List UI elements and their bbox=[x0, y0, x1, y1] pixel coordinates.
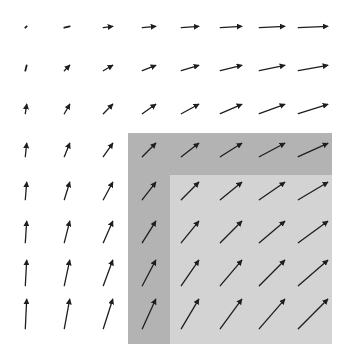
arrow-icon bbox=[64, 26, 69, 27]
arrow-icon bbox=[142, 26, 155, 27]
arrow-icon bbox=[181, 299, 198, 328]
arrow-icon bbox=[25, 65, 26, 70]
vector-field-diagram bbox=[0, 0, 350, 358]
arrow-icon bbox=[259, 299, 284, 328]
arrow-icon bbox=[298, 104, 327, 113]
arrow-icon bbox=[142, 260, 155, 285]
arrow-icon bbox=[298, 143, 327, 156]
arrow-icon bbox=[64, 143, 69, 156]
arrow-icon bbox=[220, 26, 241, 27]
arrow-icon bbox=[220, 260, 241, 285]
arrow-icon bbox=[64, 221, 69, 242]
arrow-icon bbox=[103, 182, 112, 199]
arrow-icon bbox=[220, 65, 241, 70]
arrow-icon bbox=[181, 104, 198, 113]
arrow-icon bbox=[25, 26, 26, 27]
arrow-icon bbox=[25, 182, 26, 199]
arrow-icon bbox=[259, 182, 284, 199]
arrow-icon bbox=[181, 182, 198, 199]
arrow-icon bbox=[220, 182, 241, 199]
arrow-icon bbox=[298, 299, 327, 328]
arrow-icon bbox=[103, 65, 112, 70]
arrow-icon bbox=[64, 104, 69, 113]
arrow-icon bbox=[142, 104, 155, 113]
arrow-icon bbox=[298, 260, 327, 285]
arrow-icon bbox=[259, 221, 284, 242]
arrow-icon bbox=[25, 299, 26, 328]
arrow-icon bbox=[181, 65, 198, 70]
arrow-icon bbox=[142, 65, 155, 70]
arrow-icon bbox=[25, 221, 26, 242]
arrow-icon bbox=[181, 221, 198, 242]
arrow-icon bbox=[181, 26, 198, 27]
arrow-grid bbox=[0, 0, 350, 358]
arrow-icon bbox=[64, 260, 69, 285]
arrow-icon bbox=[298, 182, 327, 199]
arrow-icon bbox=[103, 143, 112, 156]
arrow-icon bbox=[142, 299, 155, 328]
arrow-icon bbox=[103, 104, 112, 113]
arrow-icon bbox=[142, 221, 155, 242]
arrow-icon bbox=[298, 221, 327, 242]
arrow-icon bbox=[220, 104, 241, 113]
arrow-icon bbox=[64, 299, 69, 328]
arrow-icon bbox=[25, 260, 26, 285]
arrow-icon bbox=[64, 182, 69, 199]
arrow-icon bbox=[259, 143, 284, 156]
arrow-icon bbox=[181, 143, 198, 156]
arrow-icon bbox=[103, 260, 112, 285]
arrow-icon bbox=[259, 26, 284, 27]
arrow-icon bbox=[220, 221, 241, 242]
arrow-icon bbox=[25, 104, 26, 113]
arrow-icon bbox=[259, 65, 284, 70]
arrow-icon bbox=[64, 65, 69, 70]
arrow-icon bbox=[259, 104, 284, 113]
arrow-icon bbox=[103, 26, 112, 27]
arrow-icon bbox=[181, 260, 198, 285]
arrow-icon bbox=[103, 221, 112, 242]
arrow-icon bbox=[298, 26, 327, 27]
arrow-icon bbox=[142, 143, 155, 156]
arrow-icon bbox=[298, 65, 327, 70]
arrow-icon bbox=[142, 182, 155, 199]
arrow-icon bbox=[25, 143, 26, 156]
arrow-icon bbox=[259, 260, 284, 285]
arrow-icon bbox=[220, 299, 241, 328]
arrow-icon bbox=[220, 143, 241, 156]
arrow-icon bbox=[103, 299, 112, 328]
